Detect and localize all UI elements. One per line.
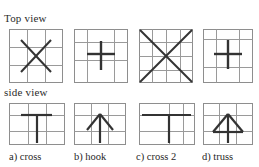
panel-side-view-cross xyxy=(9,103,65,145)
caption-row: a) cross b) hook c) cross 2 d) truss xyxy=(0,150,259,165)
panel-top-view-truss xyxy=(203,29,253,83)
panel-side-view-truss-svg xyxy=(203,103,253,145)
panel-top-view-cross-2-svg xyxy=(139,29,193,83)
panel-top-view-hook-svg xyxy=(74,29,128,83)
caption-truss: d) truss xyxy=(202,150,233,163)
panel-top-view-cross-2 xyxy=(139,29,193,83)
panel-top-view-truss-svg xyxy=(203,29,253,83)
panel-top-view-hook xyxy=(74,29,128,83)
panel-top-view-cross-svg xyxy=(9,29,63,83)
side-view-row-label: side view xyxy=(4,86,48,98)
panel-side-view-hook-svg xyxy=(74,103,126,145)
panel-side-view-truss xyxy=(203,103,253,145)
caption-hook: b) hook xyxy=(74,150,106,163)
panel-side-view-hook xyxy=(74,103,126,145)
panel-border xyxy=(140,104,195,145)
caption-cross-2: c) cross 2 xyxy=(136,150,176,163)
figure-diagram: Top view side view xyxy=(0,0,259,167)
caption-cross: a) cross xyxy=(9,150,41,163)
top-view-row-label: Top view xyxy=(4,12,47,24)
panel-side-view-cross-svg xyxy=(9,103,65,145)
panel-side-view-cross-2-svg xyxy=(139,103,195,145)
panel-top-view-cross xyxy=(9,29,63,83)
panel-side-view-cross-2 xyxy=(139,103,195,145)
